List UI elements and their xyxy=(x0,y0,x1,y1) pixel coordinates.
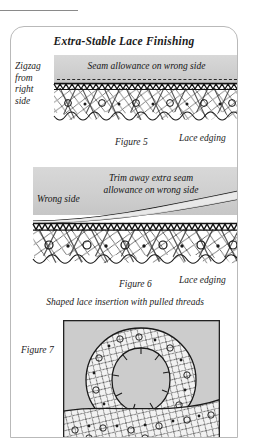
figure-5-dashed-guideline xyxy=(57,79,237,80)
figure-6-lace-edging-illustration xyxy=(33,223,238,275)
figure-5-edge-label: Lace edging xyxy=(179,133,226,143)
figure-5-caption: Figure 5 xyxy=(115,137,148,147)
figure-6-trim-line-illustration xyxy=(33,189,238,223)
figure-7: Shaped lace insertion with pulled thread… xyxy=(11,295,238,438)
figure-6-edge-label: Lace edging xyxy=(179,275,226,285)
figure-7-caption: Figure 7 xyxy=(21,345,54,355)
lace-finishing-panel: Extra-Stable Lace Finishing Zigzag from … xyxy=(10,26,238,438)
figure-7-shaped-insertion-illustration xyxy=(63,320,220,438)
figure-6-band-label-line1: Trim away extra seam xyxy=(71,173,231,184)
page-title: Extra-Stable Lace Finishing xyxy=(11,35,237,47)
figure-5-lace-edging-illustration xyxy=(54,83,238,131)
figure-6-caption: Figure 6 xyxy=(119,279,152,289)
top-divider-rule xyxy=(0,10,78,11)
figure-7-heading: Shaped lace insertion with pulled thread… xyxy=(11,297,238,307)
figure-6: Wrong side Trim away extra seam allowanc… xyxy=(11,167,238,297)
figure-5: Zigzag from right side Seam allowance on… xyxy=(11,55,238,155)
figure-5-band-label: Seam allowance on wrong side xyxy=(54,61,238,72)
figure-5-side-label: Zigzag from right side xyxy=(15,61,59,107)
